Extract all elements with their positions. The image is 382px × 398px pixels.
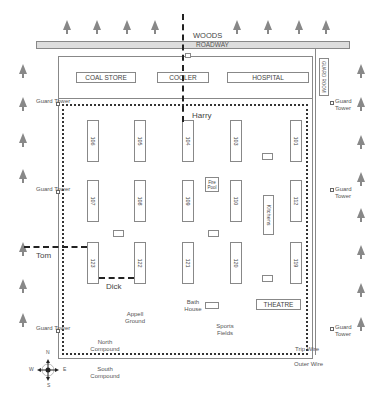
tree-icon bbox=[150, 20, 160, 34]
bath-house-label: Bath House bbox=[182, 299, 204, 313]
compass-s: S bbox=[47, 382, 50, 389]
guard-tower-label: Guard Tower bbox=[335, 324, 357, 338]
tree-icon bbox=[356, 172, 366, 186]
corridor-wall bbox=[312, 56, 313, 99]
guard-tower-label: Guard Tower bbox=[36, 98, 70, 105]
tree-icon bbox=[232, 20, 242, 34]
guard-tower-box bbox=[330, 188, 334, 192]
tunnel-tom bbox=[24, 246, 87, 248]
hut-106: 106 bbox=[87, 120, 99, 162]
bath-house bbox=[205, 302, 219, 309]
tunnel-tom-label: Tom bbox=[36, 251, 51, 260]
tree-icon bbox=[18, 133, 28, 147]
outer-wire-label: Outer Wire bbox=[294, 361, 323, 368]
tree-icon bbox=[18, 242, 28, 256]
tree-icon bbox=[356, 283, 366, 297]
tree-icon bbox=[356, 135, 366, 149]
guard-tower-box bbox=[330, 101, 334, 105]
hut-122: 122 bbox=[134, 242, 146, 284]
tunnel-harry-label: Harry bbox=[192, 111, 212, 120]
tree-icon bbox=[122, 20, 132, 34]
tree-icon bbox=[263, 20, 273, 34]
guard-tower-label: Guard Tower bbox=[335, 98, 357, 112]
sports-fields-label: Sports Fields bbox=[212, 323, 238, 337]
hut-101: 101 bbox=[290, 120, 302, 162]
hut-108: 108 bbox=[134, 180, 146, 222]
woods-label: WOODS bbox=[193, 31, 222, 40]
small-building bbox=[113, 230, 124, 237]
hut-105: 105 bbox=[134, 120, 146, 162]
tree-icon bbox=[356, 97, 366, 111]
coal-store: COAL STORE bbox=[76, 72, 136, 83]
compass-n: N bbox=[46, 349, 50, 356]
hospital: HOSPITAL bbox=[227, 72, 309, 83]
tree-icon bbox=[18, 169, 28, 183]
guard-tower-label: Guard Tower bbox=[36, 186, 70, 193]
tree-icon bbox=[356, 317, 366, 331]
compass-w: W bbox=[29, 366, 34, 373]
tree-icon bbox=[356, 64, 366, 78]
inner-wall bbox=[58, 98, 313, 99]
small-building bbox=[262, 153, 273, 160]
tree-icon bbox=[356, 245, 366, 259]
roadway-label: ROADWAY bbox=[196, 41, 229, 49]
tree-icon bbox=[18, 97, 28, 111]
corridor-wall bbox=[315, 49, 316, 355]
tree-icon bbox=[18, 64, 28, 78]
tunnel-harry bbox=[182, 14, 184, 122]
hut-109: 109 bbox=[182, 180, 194, 222]
tree-icon bbox=[294, 20, 304, 34]
tree-icon bbox=[18, 313, 28, 327]
appell-ground-label: Appell Ground bbox=[120, 311, 150, 325]
hut-107: 107 bbox=[87, 180, 99, 222]
tunnel-dick-label: Dick bbox=[106, 282, 122, 291]
hut-121: 121 bbox=[182, 242, 194, 284]
guard-room: GUARD ROOM bbox=[319, 58, 329, 96]
compass-e: E bbox=[63, 366, 66, 373]
tree-icon bbox=[92, 20, 102, 34]
theatre: THEATRE bbox=[256, 299, 301, 310]
hut-123: 123 bbox=[87, 242, 99, 284]
tree-icon bbox=[62, 20, 72, 34]
tunnel-dick bbox=[99, 277, 134, 279]
tree-icon bbox=[321, 20, 331, 34]
guard-tower-box bbox=[330, 327, 334, 331]
hut-104: 104 bbox=[182, 120, 194, 162]
roadway bbox=[36, 41, 350, 49]
trip-wire-label: Trip Wire bbox=[295, 346, 319, 353]
north-compound-label: North Compound bbox=[88, 339, 122, 353]
tree-icon bbox=[356, 208, 366, 222]
hut-103: 103 bbox=[230, 120, 242, 162]
fire-pool: Fire Pool bbox=[205, 177, 219, 192]
small-building bbox=[262, 275, 273, 282]
tree-icon bbox=[18, 279, 28, 293]
hut-119: 119 bbox=[290, 242, 302, 284]
hut-120: 120 bbox=[230, 242, 242, 284]
kitchens: Kitchens bbox=[263, 195, 274, 235]
tunnel-entrance bbox=[185, 53, 191, 58]
hut-112: 112 bbox=[290, 180, 302, 222]
small-building bbox=[208, 230, 219, 237]
guard-tower-label: Guard Tower bbox=[335, 186, 357, 200]
hut-110: 110 bbox=[230, 180, 242, 222]
guard-tower-label: Guard Tower bbox=[36, 325, 70, 332]
south-compound-label: South Compound bbox=[88, 366, 122, 380]
